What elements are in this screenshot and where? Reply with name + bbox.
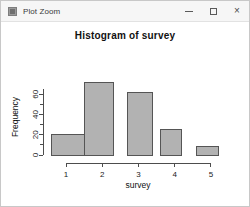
maximize-icon: [210, 8, 217, 15]
histogram-bar: [84, 82, 113, 155]
bars-group: [52, 82, 219, 155]
x-tick-label: 2: [100, 170, 105, 179]
histogram-svg: 0204060 12345 survey Frequency: [1, 22, 249, 206]
y-tick-label: 0: [31, 152, 40, 157]
x-axis-group: 12345: [64, 163, 214, 179]
histogram-bar: [52, 135, 85, 155]
plot-window-icon: [8, 7, 17, 16]
minimize-icon: [185, 11, 193, 12]
x-tick-label: 5: [209, 170, 214, 179]
x-tick-label: 3: [136, 170, 141, 179]
minimize-button[interactable]: [177, 1, 201, 22]
y-axis-group: 0204060: [31, 89, 43, 157]
histogram-bar: [128, 92, 153, 155]
maximize-button[interactable]: [201, 1, 225, 22]
plot-zoom-window: Plot Zoom × Histogram of survey 0204060 …: [0, 0, 250, 207]
close-icon: ×: [234, 6, 240, 16]
x-axis-title: survey: [125, 180, 151, 190]
y-axis-title: Frequency: [10, 96, 20, 137]
y-tick-label: 60: [31, 89, 40, 98]
x-tick-label: 4: [172, 170, 177, 179]
window-title: Plot Zoom: [23, 7, 60, 16]
window-controls: ×: [177, 1, 249, 22]
y-tick-label: 20: [31, 130, 40, 139]
y-tick-label: 40: [31, 109, 40, 118]
window-titlebar[interactable]: Plot Zoom ×: [1, 1, 249, 22]
histogram-bar: [196, 147, 218, 155]
plot-area: Histogram of survey 0204060 12345 survey…: [1, 22, 249, 206]
close-button[interactable]: ×: [225, 1, 249, 22]
x-tick-label: 1: [64, 170, 69, 179]
histogram-bar: [160, 130, 182, 155]
chart-canvas: 0204060 12345 survey Frequency: [1, 22, 249, 206]
